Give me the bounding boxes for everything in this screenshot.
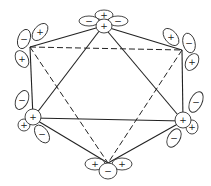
orbital-lobe-positive: + — [25, 109, 41, 125]
svg-text:−: − — [185, 38, 193, 48]
svg-text:−: − — [20, 34, 28, 44]
solid-edge — [33, 118, 183, 121]
dashed-edge — [30, 47, 182, 50]
svg-text:−: − — [18, 95, 26, 105]
svg-text:+: + — [36, 27, 44, 37]
svg-text:+: + — [179, 115, 187, 125]
svg-text:+: + — [100, 10, 108, 20]
orbital-lobe-negative: − — [99, 163, 117, 179]
solid-edge — [30, 47, 33, 118]
edges — [30, 26, 183, 163]
svg-text:+: + — [100, 21, 108, 31]
dashed-edge — [30, 47, 108, 163]
orbital-lobe-negative: − — [186, 89, 206, 114]
svg-text:+: + — [118, 159, 126, 169]
svg-text:+: + — [91, 159, 99, 169]
svg-text:−: − — [192, 97, 200, 107]
orbital-lobe-positive: + — [12, 48, 31, 70]
svg-text:−: − — [114, 16, 122, 26]
svg-text:−: − — [170, 133, 178, 143]
svg-text:−: − — [85, 16, 93, 26]
svg-text:−: − — [104, 166, 112, 176]
svg-text:+: + — [167, 32, 175, 42]
octahedral-orbital-diagram: +−−+−+++−+−+−+−+−+++− — [0, 0, 211, 186]
svg-text:+: + — [29, 112, 37, 122]
orbital-lobe-negative: − — [181, 32, 198, 54]
orbital-lobe-negative: − — [31, 122, 52, 145]
orbital-lobe-positive: + — [175, 112, 191, 128]
svg-text:−: − — [38, 129, 46, 139]
orbital-lobe-positive: + — [96, 19, 112, 33]
orbital-lobe-negative: − — [12, 88, 31, 111]
orbital-lobe-positive: + — [160, 25, 182, 48]
orbital-lobes: +−−+−+++−+−+−+−+−+++− — [12, 10, 206, 179]
svg-text:+: + — [188, 57, 196, 67]
diagram-canvas: +−−+−+++−+−+−+−+−+++− — [0, 0, 211, 186]
orbital-lobe-positive: + — [29, 20, 51, 43]
svg-text:+: + — [18, 54, 26, 64]
orbital-lobe-positive: + — [182, 51, 201, 73]
solid-edge — [182, 50, 183, 121]
